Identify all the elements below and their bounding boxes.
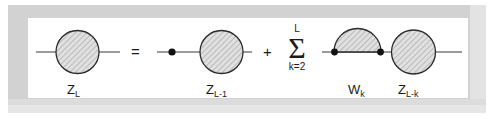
sigma-icon: Σ: [280, 34, 314, 62]
equals-operator: =: [131, 44, 140, 59]
label-z-l-k: ZL-k: [398, 83, 418, 96]
lhs-blob-circle: [56, 31, 99, 74]
summation-symbol-group: L Σ k=2: [280, 24, 314, 72]
diagram-canvas: [0, 0, 494, 119]
term1-vertex-dot: [168, 48, 175, 55]
label-z-l-k-sub: L-k: [406, 89, 419, 99]
term2-semicircle-blob: [334, 29, 381, 52]
term2-blob-circle: [392, 30, 436, 74]
label-z-l-k-base: Z: [398, 82, 406, 97]
label-w-k: Wk: [348, 83, 365, 96]
plus-operator: +: [263, 44, 272, 59]
label-z-l-sub: L: [75, 89, 80, 99]
term1-blob-circle: [200, 31, 243, 74]
figure-root: = + L Σ k=2 ZL ZL-1 Wk ZL-k: [0, 0, 494, 119]
label-z-l-base: Z: [67, 82, 75, 97]
label-w-k-base: W: [348, 82, 360, 97]
term2-vertex-dot-left: [331, 49, 338, 56]
summation-lower-limit: k=2: [280, 62, 314, 72]
label-z-l-1-sub: L-1: [214, 89, 227, 99]
label-z-l-1-base: Z: [206, 82, 214, 97]
label-z-l-1: ZL-1: [206, 83, 227, 96]
label-z-l: ZL: [67, 83, 80, 96]
label-w-k-sub: k: [360, 89, 365, 99]
term2-vertex-dot-right: [377, 49, 384, 56]
